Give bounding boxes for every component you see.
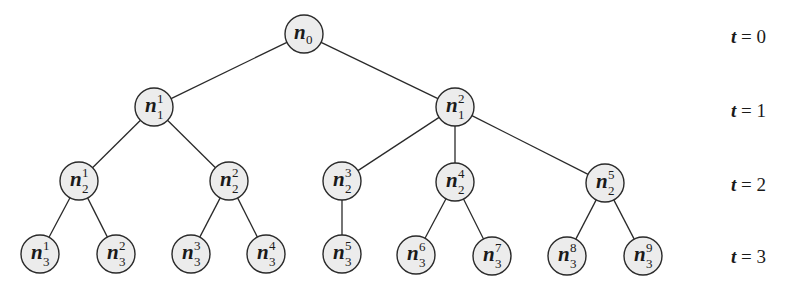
tree-node-n1_1: n11 xyxy=(135,88,173,126)
node-superscript: 5 xyxy=(608,167,615,182)
node-subscript: 0 xyxy=(306,32,313,47)
time-equals: = xyxy=(736,246,756,267)
tree-edge xyxy=(614,200,634,239)
node-superscript: 4 xyxy=(269,238,276,253)
node-label: n xyxy=(446,93,458,117)
tree-node-n2_4: n24 xyxy=(436,163,474,201)
tree-node-n2_2: n22 xyxy=(210,162,248,200)
tree-node-n3_4: n34 xyxy=(247,235,285,273)
node-subscript: 3 xyxy=(570,256,577,271)
tree-node-n2_5: n25 xyxy=(586,164,624,202)
node-subscript: 3 xyxy=(194,254,201,269)
node-label: n xyxy=(257,240,269,264)
tree-edge xyxy=(49,198,70,237)
node-superscript: 9 xyxy=(646,240,653,255)
node-superscript: 1 xyxy=(82,165,89,180)
tree-node-n3_6: n36 xyxy=(397,236,435,274)
tree-node-n3_3: n33 xyxy=(172,235,210,273)
node-subscript: 2 xyxy=(345,181,352,196)
time-value: 0 xyxy=(757,26,767,47)
node-label: n xyxy=(70,167,82,191)
tree-node-n3_9: n39 xyxy=(624,237,662,275)
time-equals: = xyxy=(736,26,756,47)
time-value: 3 xyxy=(757,246,767,267)
tree-node-n3_1: n31 xyxy=(21,235,59,273)
node-subscript: 1 xyxy=(157,107,164,122)
node-label: n xyxy=(294,20,306,44)
node-subscript: 3 xyxy=(269,254,276,269)
time-label-0: t = 0 xyxy=(731,27,766,46)
node-subscript: 1 xyxy=(458,107,465,122)
tree-edge xyxy=(93,120,141,167)
node-superscript: 6 xyxy=(419,239,426,254)
node-subscript: 3 xyxy=(119,254,126,269)
node-superscript: 4 xyxy=(458,166,465,181)
node-superscript: 5 xyxy=(345,238,352,253)
tree-edges xyxy=(49,42,634,239)
node-label: n xyxy=(558,242,570,266)
node-label: n xyxy=(634,242,646,266)
node-subscript: 2 xyxy=(232,181,239,196)
node-label: n xyxy=(333,167,345,191)
tree-edge xyxy=(576,200,596,239)
time-label-1: t = 1 xyxy=(731,101,766,120)
node-label: n xyxy=(407,241,419,265)
tree-node-n0: n0 xyxy=(285,15,323,53)
node-subscript: 3 xyxy=(43,254,50,269)
node-subscript: 3 xyxy=(646,256,653,271)
tree-node-n2_3: n23 xyxy=(323,162,361,200)
node-superscript: 2 xyxy=(232,165,239,180)
node-superscript: 1 xyxy=(157,91,164,106)
tree-edge xyxy=(472,116,588,175)
time-label-2: t = 2 xyxy=(731,175,766,194)
node-label: n xyxy=(483,242,495,266)
tree-node-n2_1: n21 xyxy=(60,162,98,200)
node-superscript: 2 xyxy=(458,91,465,106)
node-label: n xyxy=(446,168,458,192)
node-subscript: 2 xyxy=(608,183,615,198)
time-label-3: t = 3 xyxy=(731,247,766,266)
node-label: n xyxy=(107,240,119,264)
node-subscript: 2 xyxy=(458,182,465,197)
node-subscript: 3 xyxy=(345,254,352,269)
tree-edge xyxy=(200,198,220,237)
time-value: 2 xyxy=(757,174,767,195)
tree-edge xyxy=(168,120,216,167)
node-superscript: 1 xyxy=(43,238,50,253)
tree-node-n1_2: n12 xyxy=(436,88,474,126)
tree-edge xyxy=(88,198,108,237)
tree-edge xyxy=(425,199,446,238)
node-label: n xyxy=(220,167,232,191)
node-subscript: 3 xyxy=(419,255,426,270)
tree-node-n3_5: n35 xyxy=(323,235,361,273)
node-label: n xyxy=(145,93,157,117)
node-label: n xyxy=(333,240,345,264)
time-equals: = xyxy=(736,174,756,195)
tree-edge xyxy=(464,199,484,239)
node-superscript: 7 xyxy=(495,240,502,255)
scenario-tree-diagram: n0n11n12n21n22n23n24n25n31n32n33n34n35n3… xyxy=(0,0,804,296)
tree-edge xyxy=(238,198,258,237)
node-superscript: 3 xyxy=(345,165,352,180)
node-superscript: 3 xyxy=(194,238,201,253)
tree-node-n3_8: n38 xyxy=(548,237,586,275)
tree-nodes: n0n11n12n21n22n23n24n25n31n32n33n34n35n3… xyxy=(21,15,662,275)
node-superscript: 8 xyxy=(570,240,577,255)
node-superscript: 2 xyxy=(119,238,126,253)
tree-edge xyxy=(321,42,438,98)
node-subscript: 3 xyxy=(495,256,502,271)
node-label: n xyxy=(31,240,43,264)
time-equals: = xyxy=(736,100,756,121)
node-subscript: 2 xyxy=(82,181,89,196)
tree-node-n3_2: n32 xyxy=(97,235,135,273)
node-label: n xyxy=(182,240,194,264)
tree-node-n3_7: n37 xyxy=(473,237,511,275)
tree-edge xyxy=(358,117,439,170)
node-label: n xyxy=(596,169,608,193)
time-value: 1 xyxy=(757,100,767,121)
tree-edge xyxy=(171,42,287,98)
